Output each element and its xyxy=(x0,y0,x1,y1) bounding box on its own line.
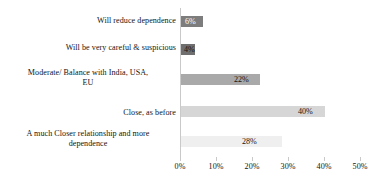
bar-4 xyxy=(181,136,282,147)
category-label-0: Will reduce dependence xyxy=(0,16,176,26)
category-label-3: Close, as before xyxy=(0,108,176,118)
category-label-4: A much Closer relationship and more depe… xyxy=(0,129,176,149)
plot-area: 6% 4% 22% 40% 28% xyxy=(180,0,380,158)
x-tick-label-4: 40% xyxy=(311,161,337,172)
bar-value-0: 6% xyxy=(185,16,196,27)
bar-value-2: 22% xyxy=(234,74,249,85)
bar-value-1: 4% xyxy=(184,44,195,55)
x-tick-label-2: 20% xyxy=(239,161,265,172)
x-tick-label-5: 50% xyxy=(347,161,373,172)
bar-chart: Will reduce dependence Will be very care… xyxy=(0,0,382,187)
x-tick-label-0: 0% xyxy=(167,161,193,172)
category-axis-labels: Will reduce dependence Will be very care… xyxy=(0,0,176,158)
category-label-2: Moderate/ Balance with India, USA, EU xyxy=(0,68,176,88)
category-label-1: Will be very careful & suspicious xyxy=(0,43,176,53)
x-axis-labels: 0% 10% 20% 30% 40% 50% xyxy=(180,161,380,181)
x-tick-label-3: 30% xyxy=(275,161,301,172)
bar-value-4: 28% xyxy=(242,136,257,147)
bar-value-3: 40% xyxy=(298,106,313,117)
x-tick-label-1: 10% xyxy=(203,161,229,172)
